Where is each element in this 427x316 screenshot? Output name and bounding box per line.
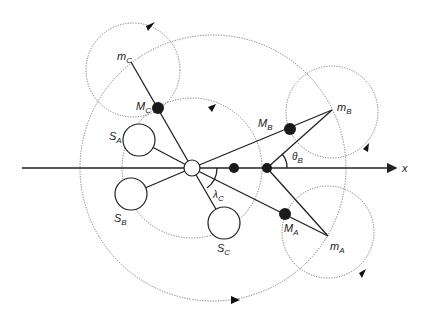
label-SA: SA [109,130,122,145]
arrow-icon [231,296,240,304]
arrow-icon [208,104,216,112]
label-SB: SB [114,212,127,227]
label-MB: MB [258,117,273,132]
satellite-SC [208,207,240,239]
hub [184,160,200,176]
arrow-icon [359,269,366,278]
label-mA: mA [330,240,345,255]
orbit-mB [286,66,378,158]
mass-MB [284,123,296,135]
angle-thetaB [282,154,287,168]
label-thetaB: θB [292,151,303,165]
label-mB: mB [337,101,352,116]
arm-dot-mA [267,168,328,236]
satellite-SA [123,124,155,156]
orbital-diagram: x mC MC mB MB mA MA SA SB SC θB λC [0,0,427,316]
orbit-mC [86,23,180,117]
mass-axis-2 [262,163,272,173]
label-lambdaC: λC [212,189,224,203]
mass-axis-1 [229,163,239,173]
mass-MC [152,102,164,114]
label-MA: MA [284,222,299,237]
arrow-icon [146,22,155,31]
label-SC: SC [217,242,230,257]
mass-MA [279,208,291,220]
satellite-SB [115,178,147,210]
arrow-icon [363,143,369,152]
x-axis-label: x [401,162,408,174]
label-mC: mC [117,50,132,65]
label-MC: MC [136,100,151,115]
